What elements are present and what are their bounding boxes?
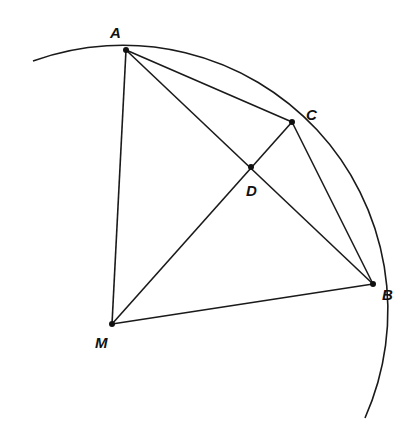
segment-mb: [112, 284, 373, 324]
point-a: [123, 47, 129, 53]
label-d: D: [246, 182, 257, 199]
label-m: M: [95, 334, 108, 351]
circle-arc: [33, 45, 388, 418]
label-b: B: [382, 286, 393, 303]
label-a: A: [109, 24, 121, 41]
geometry-diagram: ACDBM: [0, 0, 414, 435]
point-d: [248, 164, 254, 170]
point-b: [370, 281, 376, 287]
segment-ac: [126, 50, 292, 122]
point-m: [109, 321, 115, 327]
segment-cb: [292, 122, 373, 284]
point-c: [289, 119, 295, 125]
segment-mc: [112, 122, 292, 324]
label-c: C: [306, 106, 318, 123]
segment-am: [112, 50, 126, 324]
